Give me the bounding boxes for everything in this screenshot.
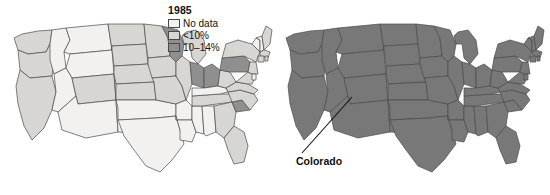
- legend-swatch-10-14: [168, 43, 180, 52]
- legend-row-under-10: <10%: [168, 30, 220, 41]
- map-panel-1985: 1985 No data <10% 10–14%: [0, 0, 275, 195]
- state-WY: [338, 50, 386, 78]
- state-RI: [537, 56, 540, 61]
- state-AL: [202, 106, 216, 136]
- state-MT: [64, 24, 112, 54]
- state-NE: [386, 64, 426, 84]
- state-AR: [176, 100, 192, 120]
- state-CA: [288, 70, 328, 140]
- legend-year-1985: 1985: [168, 4, 192, 16]
- state-IA: [420, 56, 448, 78]
- legend-label-10-14: 10–14%: [183, 43, 220, 53]
- state-DE: [252, 74, 256, 80]
- state-CA: [16, 70, 56, 140]
- state-UT: [72, 74, 116, 104]
- legend-label-under-10: <10%: [183, 31, 209, 41]
- state-PA: [492, 56, 522, 72]
- state-TX: [390, 116, 456, 172]
- state-AL: [474, 106, 488, 136]
- state-IA: [148, 56, 176, 78]
- legend-1985: 1985 No data <10% 10–14%: [168, 4, 220, 54]
- state-OH: [204, 64, 220, 88]
- state-AR: [448, 100, 464, 120]
- state-PA: [220, 56, 250, 72]
- legend-swatch-under-10: [168, 31, 180, 40]
- state-CT: [258, 56, 264, 62]
- legend-label-no-data: No data: [183, 19, 218, 29]
- state-WY: [66, 50, 114, 78]
- legend-row-no-data: No data: [168, 18, 220, 29]
- state-OH: [476, 64, 492, 88]
- state-SD: [384, 44, 420, 66]
- legend-swatch-no-data: [168, 19, 180, 28]
- colorado-annotation-label: Colorado: [296, 155, 342, 167]
- state-DE: [524, 74, 528, 80]
- state-ME: [262, 26, 272, 50]
- state-NJ: [248, 62, 258, 74]
- us-map-1985: [0, 0, 275, 195]
- state-NE: [114, 64, 154, 84]
- state-TX: [118, 116, 184, 172]
- state-ME: [534, 26, 544, 50]
- two-map-figure: 1985 No data <10% 10–14%: [0, 0, 550, 195]
- legend-title-1985: 1985: [168, 4, 220, 16]
- state-RI: [265, 56, 268, 61]
- legend-row-10-14: 10–14%: [168, 42, 220, 53]
- state-KS: [116, 82, 156, 100]
- state-UT: [344, 74, 388, 104]
- state-IN: [462, 62, 476, 88]
- state-IN: [190, 62, 204, 88]
- state-SD: [112, 44, 148, 66]
- state-NJ: [520, 62, 530, 74]
- state-MT: [336, 24, 384, 54]
- state-CT: [530, 56, 536, 62]
- state-KS: [388, 82, 428, 100]
